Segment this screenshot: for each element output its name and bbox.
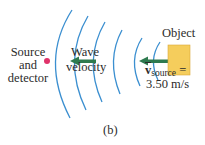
object-label: Object (162, 27, 195, 40)
wavefront-4 (113, 30, 122, 94)
velocity-value: 3.50 m/s (146, 78, 189, 91)
label-line: detector (7, 72, 49, 85)
label-line: velocity (66, 61, 104, 74)
panel-label: (b) (103, 124, 118, 137)
source-detector-label: Source and detector (7, 46, 49, 85)
label-line: Wave (66, 46, 104, 59)
wavefront-5 (134, 38, 142, 86)
velocity-symbol: v (145, 63, 151, 77)
wave-velocity-label: Wave velocity (66, 46, 104, 74)
equals-sign: = (179, 63, 186, 77)
